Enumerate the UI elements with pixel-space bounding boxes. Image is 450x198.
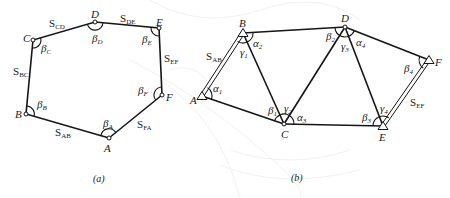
vertex-f	[160, 93, 164, 97]
angle-arc-gamma-1	[238, 41, 248, 43]
angle-label-beta-f: βF	[137, 84, 148, 98]
side-label-sbc: SBC	[13, 65, 29, 79]
vertex-d	[93, 20, 97, 24]
diagram-svg: A B C D E F SAB SBC SCD SDE SEF SFA βA β…	[0, 0, 450, 198]
angle-label-gamma-2: γ2	[284, 102, 292, 116]
vertex-b	[24, 112, 28, 116]
caption-a: (a)	[93, 173, 105, 185]
angle-arc-beta-3	[373, 117, 379, 126]
figure-a: A B C D E F SAB SBC SCD SDE SEF SFA βA β…	[13, 8, 178, 185]
angle-label-beta-c: βC	[40, 42, 51, 56]
edge-bc	[243, 33, 284, 124]
side-label-sef: SEF	[410, 96, 424, 110]
caption-b: (b)	[291, 172, 303, 184]
vertex-markers-b	[197, 25, 434, 130]
side-label-sfa: SFA	[137, 118, 152, 132]
point-label-e: E	[155, 16, 163, 28]
angle-arc-alpha-4	[349, 31, 355, 37]
angle-label-gamma-1: γ1	[240, 46, 248, 60]
angle-arc-gamma-3	[340, 36, 349, 37]
vertex-a	[107, 136, 111, 140]
point-label-d: D	[340, 12, 349, 24]
point-label-f: F	[165, 91, 173, 103]
point-label-c: C	[23, 32, 31, 44]
side-label-sef: SEF	[164, 52, 178, 66]
point-label-e: E	[378, 131, 386, 143]
side-label-scd: SCD	[49, 17, 65, 31]
angle-label-alpha-3: α3	[297, 111, 307, 125]
known-point-triangle-f	[424, 56, 434, 64]
angle-label-beta-4: β4	[403, 62, 413, 76]
angle-label-alpha-4: α4	[356, 36, 366, 50]
angle-label-beta-a: βA	[102, 117, 113, 131]
angle-label-alpha-2: α2	[253, 37, 263, 51]
point-label-b: B	[15, 108, 22, 120]
point-label-d: D	[90, 8, 99, 20]
angle-label-gamma-4: γ4	[380, 102, 388, 116]
angle-label-beta-2: β2	[325, 30, 335, 44]
vertex-d	[343, 25, 347, 29]
traverse-figure: A B C D E F SAB SBC SCD SDE SEF SFA βA β…	[0, 0, 450, 198]
angle-arc-alpha-3	[289, 116, 294, 125]
angle-arc-beta-2	[335, 28, 340, 36]
angle-label-gamma-3: γ3	[341, 40, 349, 54]
angle-label-beta-d: βD	[91, 32, 103, 46]
angle-label-beta-3: β3	[361, 111, 371, 125]
vertex-c	[31, 38, 35, 42]
side-label-sab: SAB	[206, 50, 222, 64]
point-label-a: A	[189, 94, 197, 106]
side-label-sde: SDE	[120, 12, 135, 26]
vertex-c	[282, 122, 286, 126]
angle-label-beta-e: βE	[141, 33, 152, 47]
angle-label-alpha-1: α1	[213, 82, 222, 96]
point-label-f: F	[434, 56, 442, 68]
side-label-sab: SAB	[55, 126, 71, 140]
point-label-c: C	[281, 128, 289, 140]
point-label-b: B	[239, 17, 246, 29]
angle-label-beta-b: βB	[36, 98, 47, 112]
point-label-a: A	[103, 142, 111, 154]
edge-cd	[284, 27, 345, 124]
